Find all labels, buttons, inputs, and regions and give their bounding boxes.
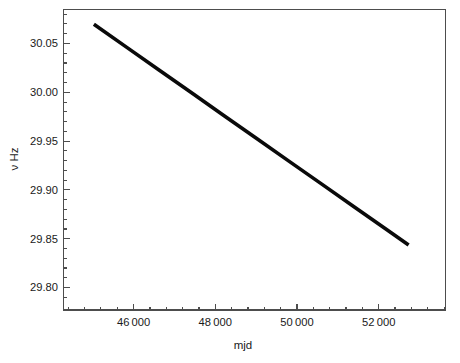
y-axis-title: ν Hz — [8, 147, 20, 170]
x-tick-label-52000: 52 000 — [362, 316, 395, 328]
y-tick-label-29-90: 29.90 — [30, 184, 58, 196]
y-tick-label-29-85: 29.85 — [30, 233, 58, 245]
x-tick-marks — [134, 304, 379, 310]
y-tick-label-30-05: 30.05 — [30, 37, 58, 49]
y-tick-marks — [64, 44, 70, 288]
plot-frame — [64, 10, 446, 311]
x-tick-label-50000: 50 000 — [280, 316, 313, 328]
x-tick-label-46000: 46 000 — [117, 316, 150, 328]
chart-figure: 30.05 30.00 29.95 29.90 29.85 29.80 46 0… — [0, 0, 460, 363]
x-tick-label-48000: 48 000 — [199, 316, 232, 328]
y-tick-label-29-95: 29.95 — [30, 135, 58, 147]
y-tick-label-30-00: 30.00 — [30, 86, 58, 98]
plot-canvas: 30.05 30.00 29.95 29.90 29.85 29.80 46 0… — [0, 0, 460, 363]
y-tick-label-29-80: 29.80 — [30, 281, 58, 293]
x-axis-title: mjd — [234, 339, 253, 351]
data-series-line — [94, 24, 409, 245]
